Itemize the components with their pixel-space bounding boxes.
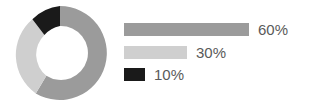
legend: 60% 30% 10%: [124, 20, 309, 90]
legend-item-label: 10%: [145, 67, 184, 82]
donut-slices: [16, 6, 107, 100]
legend-bar-swatch: [124, 68, 145, 81]
legend-item-label: 30%: [187, 45, 226, 60]
donut-chart: [13, 4, 107, 102]
legend-item[interactable]: 60%: [124, 20, 288, 38]
legend-item[interactable]: 30%: [124, 43, 226, 61]
legend-bar-swatch: [124, 46, 187, 59]
donut-chart-figure: 60% 30% 10%: [0, 0, 309, 106]
legend-item-label: 60%: [249, 22, 288, 37]
legend-bar-swatch: [124, 23, 249, 36]
legend-item[interactable]: 10%: [124, 65, 184, 83]
